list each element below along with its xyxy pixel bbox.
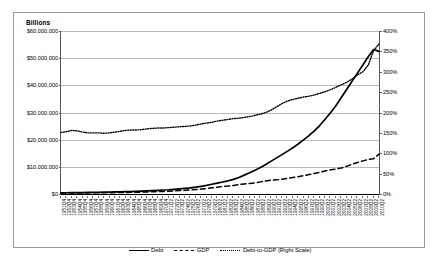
x-axis-tick-label: 2001Q2 — [331, 199, 336, 216]
y-axis-left-tick-mark — [59, 194, 62, 195]
x-axis-tick-label: 1958Q4 — [99, 199, 104, 216]
x-axis-tick-mark — [324, 196, 325, 198]
x-axis-tick-mark — [362, 196, 363, 198]
x-axis-tick-mark — [378, 196, 379, 198]
x-axis-tick-mark — [211, 196, 212, 198]
x-axis-tick-label: 2006Q2 — [358, 199, 363, 216]
x-axis-tick-mark — [87, 196, 88, 198]
legend-label: GDP — [197, 247, 210, 253]
x-axis-tick-mark — [114, 196, 115, 198]
x-axis-tick-label: 2010Q2 — [380, 199, 385, 216]
legend-swatch-solid — [129, 247, 149, 253]
y-axis-left-tick-label: $60,000,000 — [27, 28, 58, 34]
series-lines — [61, 31, 379, 194]
x-axis-tick-mark — [238, 196, 239, 198]
x-axis-tick-label: 2004Q2 — [347, 199, 352, 216]
legend-swatch-dashed — [174, 247, 194, 253]
x-axis-tick-mark — [281, 196, 282, 198]
chart-container: Billions $0$10,000,000$20,000,000$30,000… — [13, 12, 425, 248]
x-axis-tick-mark — [308, 196, 309, 198]
x-axis-tick-mark — [76, 196, 77, 198]
x-axis-tick-label: 1951Q4 — [62, 199, 67, 216]
legend-label: Debt-to-GDP (Right Scale) — [243, 247, 312, 253]
x-axis-tick-mark — [297, 196, 298, 198]
x-axis-tick-label: 1996Q2 — [304, 199, 309, 216]
x-axis-labels: 1951Q41952Q41953Q41954Q41955Q41956Q41957… — [60, 196, 378, 242]
x-axis-tick-label: 1973Q2 — [180, 199, 185, 216]
x-axis-tick-mark — [265, 196, 266, 198]
y-axis-right-tick-mark — [379, 92, 382, 93]
y-axis-right-tick-label: 200% — [383, 110, 397, 116]
x-axis-tick-label: 2005Q2 — [353, 199, 358, 216]
x-axis-tick-label: 1978Q2 — [207, 199, 212, 216]
x-axis-tick-label: 1953Q4 — [72, 199, 77, 216]
series-line-gdp — [61, 154, 379, 193]
chart-legend: DebtGDPDebt-to-GDP (Right Scale) — [14, 244, 426, 256]
x-axis-tick-label: 1968Q4 — [153, 199, 158, 216]
y-axis-left-tick-label: $10,000,000 — [27, 164, 58, 170]
y-axis-right-tick-label: 350% — [383, 48, 397, 54]
x-axis-tick-label: 2007Q2 — [364, 199, 369, 216]
x-axis-tick-mark — [184, 196, 185, 198]
y-axis-right-tick-label: 100% — [383, 150, 397, 156]
x-axis-tick-label: 1986Q2 — [250, 199, 255, 216]
y-axis-right-tick-label: 150% — [383, 130, 397, 136]
x-axis-tick-label: 2009Q2 — [374, 199, 379, 216]
y-axis-right-tick-mark — [379, 72, 382, 73]
x-axis-tick-mark — [335, 196, 336, 198]
x-axis-tick-label: 1994Q2 — [293, 199, 298, 216]
x-axis-tick-label: 1989Q2 — [267, 199, 272, 216]
x-axis-tick-label: 1956Q4 — [89, 199, 94, 216]
x-axis-tick-label: 1997Q2 — [310, 199, 315, 216]
y-axis-right-tick-label: 0% — [383, 191, 391, 197]
x-axis-tick-mark — [200, 196, 201, 198]
x-axis-tick-mark — [60, 196, 61, 198]
y-axis-left-tick-label: $20,000,000 — [27, 137, 58, 143]
y-axis-right-tick-mark — [379, 31, 382, 32]
x-axis-tick-label: 1991Q2 — [277, 199, 282, 216]
x-axis-tick-label: 1979Q2 — [213, 199, 218, 216]
y-axis-left-tick-label: $50,000,000 — [27, 55, 58, 61]
x-axis-tick-mark — [141, 196, 142, 198]
legend-label: Debt — [151, 247, 163, 253]
legend-item: Debt — [129, 247, 164, 253]
x-axis-tick-label: 1961Q4 — [116, 199, 121, 216]
y-axis-right-tick-label: 400% — [383, 28, 397, 34]
x-axis-tick-label: 1988Q2 — [261, 199, 266, 216]
x-axis-tick-label: 1974Q2 — [186, 199, 191, 216]
legend-item: Debt-to-GDP (Right Scale) — [220, 247, 311, 253]
plot-area: $0$10,000,000$20,000,000$30,000,000$40,0… — [60, 31, 380, 195]
x-axis-tick-mark — [130, 196, 131, 198]
y-axis-right-tick-mark — [379, 133, 382, 134]
x-axis-tick-mark — [103, 196, 104, 198]
x-axis-tick-label: 1992Q2 — [283, 199, 288, 216]
legend-item: GDP — [174, 247, 209, 253]
x-axis-tick-label: 1999Q2 — [320, 199, 325, 216]
y-axis-right-tick-label: 50% — [383, 171, 394, 177]
x-axis-tick-label: 1969Q4 — [159, 199, 164, 216]
x-axis-tick-label: 1984Q2 — [240, 199, 245, 216]
y-axis-right-tick-label: 250% — [383, 89, 397, 95]
x-axis-tick-label: 1966Q4 — [143, 199, 148, 216]
y-axis-left-tick-label: $30,000,000 — [27, 110, 58, 116]
x-axis-tick-label: 1965Q4 — [137, 199, 142, 216]
series-line-debt-to-gdp-right-scale — [61, 44, 379, 133]
x-axis-tick-label: 1976Q2 — [196, 199, 201, 216]
x-axis-tick-label: 1971Q2 — [169, 199, 174, 216]
x-axis-tick-label: 1955Q4 — [83, 199, 88, 216]
legend-swatch-dotted — [220, 247, 240, 253]
x-axis-tick-label: 1963Q4 — [126, 199, 131, 216]
y-axis-right-tick-mark — [379, 194, 382, 195]
y-axis-left-tick-label: $0 — [52, 191, 58, 197]
x-axis-tick-mark — [254, 196, 255, 198]
x-axis-tick-label: 1981Q2 — [223, 199, 228, 216]
y-axis-right-tick-mark — [379, 113, 382, 114]
x-axis-tick-mark — [351, 196, 352, 198]
y-axis-unit-label: Billions — [26, 19, 50, 26]
x-axis-tick-label: 1960Q4 — [110, 199, 115, 216]
x-axis-tick-mark — [157, 196, 158, 198]
x-axis-tick-label: 1983Q2 — [234, 199, 239, 216]
y-axis-right-tick-label: 300% — [383, 69, 397, 75]
y-axis-right-tick-mark — [379, 174, 382, 175]
x-axis-tick-label: 2002Q2 — [337, 199, 342, 216]
